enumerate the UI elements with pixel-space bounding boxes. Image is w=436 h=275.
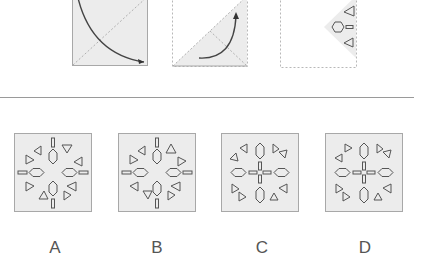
fold-step-3: [280, 0, 357, 68]
section-divider: [0, 97, 414, 98]
option-c-figure[interactable]: [221, 133, 299, 212]
fold-step-1: [72, 0, 148, 66]
option-d-label[interactable]: D: [345, 238, 385, 258]
option-b-label[interactable]: B: [137, 238, 177, 258]
fold-step-2: [172, 0, 248, 67]
option-a-label[interactable]: A: [35, 238, 75, 258]
option-a-figure[interactable]: [14, 133, 92, 212]
option-c-label[interactable]: C: [242, 238, 282, 258]
option-d-figure[interactable]: [325, 133, 403, 212]
folded-paper: [73, 0, 148, 66]
option-b-figure[interactable]: [118, 133, 196, 212]
